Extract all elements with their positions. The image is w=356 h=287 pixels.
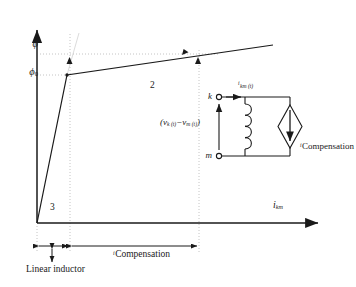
marker-tri-right bbox=[195, 57, 201, 64]
saturation-curve bbox=[37, 45, 273, 223]
terminal-label-m: m bbox=[206, 151, 213, 160]
coil-loop-3 bbox=[245, 126, 251, 137]
voltage-difference-label: (vk (t)−vm (t)) bbox=[160, 118, 200, 128]
terminal-k-dot bbox=[216, 94, 221, 99]
region-label-2: 2 bbox=[150, 81, 155, 91]
inductor-coil bbox=[245, 104, 251, 149]
terminal-m-dot bbox=[216, 153, 221, 158]
coil-loop-2 bbox=[245, 115, 251, 126]
figure-canvas: ϕ ϕ0 2 3 ikm iCompensation Linear induct… bbox=[0, 0, 356, 287]
dimension-label-linear-inductor: Linear inductor bbox=[26, 265, 85, 275]
compensation-current-source bbox=[278, 105, 302, 148]
knee-point-marker bbox=[65, 73, 68, 76]
terminal-label-k: k bbox=[208, 92, 212, 101]
y-tick-label-phi: ϕ bbox=[33, 39, 38, 50]
coil-loop-4 bbox=[245, 138, 251, 149]
y-tick-label-phi-zero: ϕ0 bbox=[29, 67, 38, 78]
coil-loop-1 bbox=[245, 104, 251, 115]
branch-current-label: ikm (t) bbox=[238, 80, 253, 90]
region-label-3: 3 bbox=[50, 203, 55, 213]
curve-polyline bbox=[37, 45, 273, 223]
curve-direction-markers bbox=[67, 49, 202, 64]
vertical-guide-lines bbox=[37, 34, 199, 252]
x-axis-label: ikm bbox=[273, 200, 283, 211]
dimension-label-compensation: iCompensation bbox=[113, 250, 170, 260]
current-source-label: iCompensation bbox=[300, 142, 354, 151]
